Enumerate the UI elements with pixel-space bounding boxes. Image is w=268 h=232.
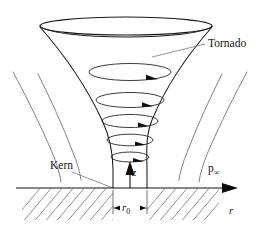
r-axis-label: r [229, 205, 233, 216]
tornado-leader-line [152, 44, 205, 57]
circulation-ring-5 [111, 152, 149, 162]
tornado-diagram: Tornado Kern z r p∞ r0 [0, 0, 268, 232]
circulation-arrow-3 [138, 123, 149, 127]
circulation-arrow-5 [133, 158, 144, 162]
leader-lines [72, 44, 205, 188]
circulation-rings [89, 64, 171, 163]
diagram-canvas [0, 0, 268, 232]
funnel-wall-right [147, 27, 212, 188]
r0-arrowhead-right [140, 206, 146, 211]
pressure-subscript: ∞ [214, 168, 220, 177]
core-radius-label: r0 [122, 202, 130, 216]
kern-label: Kern [50, 160, 73, 172]
hatch-group-right [135, 186, 233, 224]
streamline-right-outer [199, 72, 247, 182]
ambient-pressure-label: p∞ [208, 163, 219, 177]
circulation-ring-1 [89, 64, 171, 81]
kern-leader-line [72, 172, 113, 188]
circulation-arrow-1 [146, 75, 158, 80]
circulation-arrow-4 [135, 141, 146, 145]
r0-arrowhead-left [114, 206, 120, 211]
tornado-label: Tornado [208, 38, 246, 50]
z-axis-label: z [132, 167, 136, 178]
circulation-ring-4 [107, 134, 153, 146]
circulation-ring-2 [96, 93, 164, 108]
funnel-mouth-ellipse [40, 17, 212, 37]
r-axis [222, 183, 238, 193]
circulation-arrow-2 [142, 102, 153, 107]
core-radius-subscript: 0 [126, 207, 130, 216]
r-axis-arrowhead [222, 183, 238, 193]
circulation-ring-3 [102, 115, 158, 128]
funnel-mouth-outer [40, 17, 212, 35]
